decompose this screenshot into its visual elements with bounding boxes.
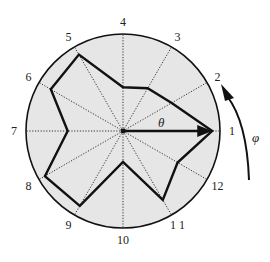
center-point	[121, 129, 126, 134]
spoke-label: 9	[66, 218, 72, 232]
spoke-label: 8	[26, 179, 32, 193]
spoke-label: 7	[11, 124, 17, 138]
phi-rotation-arc	[227, 96, 249, 180]
spoke-label: 10	[117, 233, 129, 247]
phi-label: φ	[252, 130, 259, 145]
spoke-label: 12	[211, 179, 223, 193]
spoke-label: 6	[26, 70, 32, 84]
spoke-label: 3	[175, 30, 181, 44]
polar-diagram: θ 123456789101 112 φ	[0, 0, 270, 262]
spoke-label: 1 1	[170, 218, 185, 232]
spoke-label: 5	[66, 30, 72, 44]
theta-label: θ	[158, 115, 165, 130]
phi-arrowhead-icon	[221, 84, 234, 101]
spoke-label: 1	[229, 124, 235, 138]
spoke-label: 2	[214, 70, 220, 84]
spoke-label: 4	[120, 15, 126, 29]
